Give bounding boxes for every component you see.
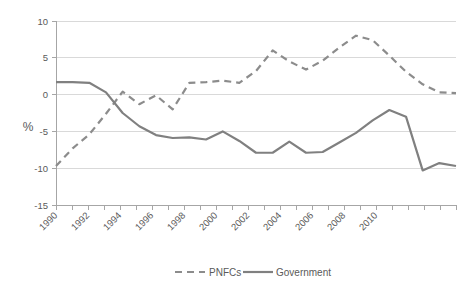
y-tick-label-0: 0 (43, 89, 48, 100)
chart-background (0, 0, 474, 292)
y-tick-label-5: 5 (43, 52, 48, 63)
y-tick-label-minus15: -15 (34, 200, 48, 211)
chart-container: 10 5 0 -5 -10 -15 % (0, 0, 474, 292)
legend-label-pnfcs: PNFCs (209, 267, 241, 278)
line-chart: 10 5 0 -5 -10 -15 % (0, 0, 474, 292)
legend-label-government: Government (276, 267, 331, 278)
y-tick-label-minus10: -10 (34, 163, 48, 174)
y-tick-label-10: 10 (37, 16, 48, 27)
y-tick-label-minus5: -5 (40, 126, 48, 137)
y-axis-title: % (23, 120, 34, 134)
